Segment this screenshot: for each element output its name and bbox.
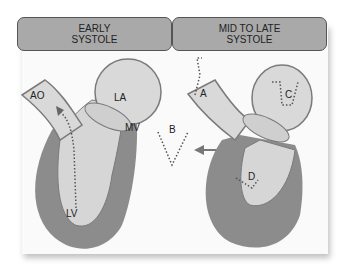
label-ao: AO — [30, 90, 45, 101]
arrowhead-icon — [194, 145, 204, 155]
b-waveform — [158, 132, 188, 165]
label-la: LA — [114, 92, 127, 103]
label-mv: MV — [125, 122, 140, 133]
left-heart: AO LA MV LV — [22, 59, 161, 249]
right-aorta — [188, 80, 250, 140]
right-heart: A C D — [188, 58, 312, 248]
label-d: D — [248, 171, 255, 182]
heart-diagrams: AO LA MV LV B A C D — [0, 0, 344, 269]
label-lv: LV — [66, 208, 78, 219]
label-b: B — [169, 124, 176, 135]
label-c: C — [285, 89, 292, 100]
label-a: A — [200, 88, 207, 99]
